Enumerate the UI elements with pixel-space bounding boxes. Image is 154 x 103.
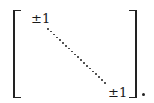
left-bracket (13, 10, 21, 98)
dot (101, 79, 103, 81)
matrix-entry-top-left: ±1 (31, 12, 50, 25)
dot (59, 39, 61, 41)
dot (77, 56, 79, 58)
dot (83, 62, 85, 64)
dot (47, 28, 49, 30)
matrix-entry-bottom-right: ±1 (108, 86, 127, 99)
dot (53, 34, 55, 36)
dot (86, 65, 88, 67)
dot (80, 59, 82, 61)
dot (89, 68, 91, 70)
dot (56, 37, 58, 39)
period (142, 93, 145, 96)
dot (98, 76, 100, 78)
dot (50, 31, 52, 33)
dot (62, 42, 64, 44)
dot (68, 48, 70, 50)
dot (71, 51, 73, 53)
dot (74, 54, 76, 56)
dot (92, 71, 94, 73)
dot (95, 73, 97, 75)
right-bracket (129, 10, 137, 98)
dot (65, 45, 67, 47)
dot (104, 82, 106, 84)
